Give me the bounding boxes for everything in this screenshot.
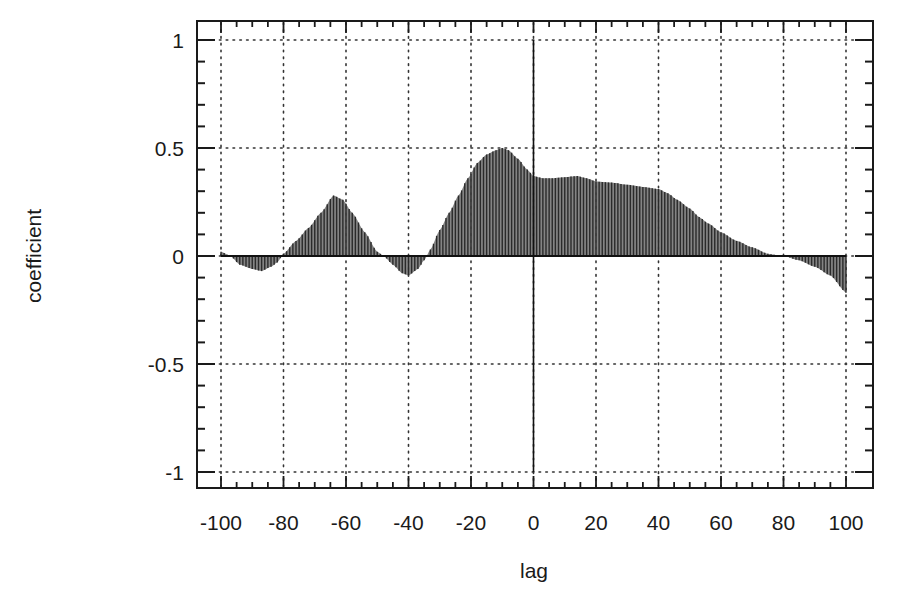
y-tick-label: -1 — [165, 461, 184, 484]
x-tick-label: 40 — [647, 511, 670, 534]
correlation-chart: -100-80-60-40-20020406080100 10.50-0.5-1… — [0, 0, 897, 603]
x-tick-label: -20 — [456, 511, 486, 534]
y-axis-tick-labels: 10.50-0.5-1 — [148, 29, 184, 484]
x-tick-label: -100 — [200, 511, 242, 534]
x-tick-label: 60 — [709, 511, 732, 534]
y-axis-title: coefficient — [22, 209, 45, 303]
x-axis-tick-labels: -100-80-60-40-20020406080100 — [200, 511, 864, 534]
x-tick-label: -80 — [268, 511, 298, 534]
x-axis-title: lag — [520, 559, 548, 582]
reference-lines — [221, 40, 846, 472]
x-tick-label: -40 — [393, 511, 423, 534]
y-tick-label: -0.5 — [148, 353, 184, 376]
y-tick-label: 1 — [172, 29, 184, 52]
x-tick-label: -60 — [331, 511, 361, 534]
x-tick-label: 0 — [528, 511, 540, 534]
y-tick-label: 0.5 — [155, 137, 184, 160]
x-tick-label: 20 — [584, 511, 607, 534]
y-tick-label: 0 — [172, 245, 184, 268]
x-tick-label: 100 — [828, 511, 863, 534]
x-tick-label: 80 — [772, 511, 795, 534]
